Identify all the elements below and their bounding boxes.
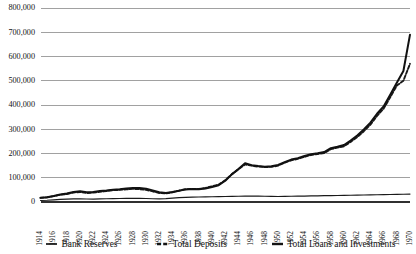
- y-tick-label: 600,000: [8, 52, 35, 61]
- y-tick-label: 500,000: [8, 76, 35, 85]
- y-axis-tick-labels: 0100,000200,000300,000400,000500,000600,…: [8, 3, 35, 206]
- x-tick-label: 1946: [246, 231, 255, 246]
- y-tick-label: 200,000: [8, 149, 35, 158]
- x-tick-label: 1948: [260, 231, 269, 246]
- y-tick-label: 400,000: [8, 100, 35, 109]
- x-tick-label: 1930: [141, 231, 150, 246]
- x-tick-label: 1928: [128, 231, 137, 246]
- y-tick-label: 800,000: [8, 3, 35, 12]
- legend-label: Total Deposits: [173, 239, 228, 249]
- x-tick-label: 1914: [35, 231, 44, 246]
- chart-legend: Bank ReservesTotal DepositsTotal Loans a…: [46, 239, 396, 249]
- data-series: [41, 35, 411, 201]
- chart-container: 0100,000200,000300,000400,000500,000600,…: [0, 0, 416, 254]
- line-chart: 0100,000200,000300,000400,000500,000600,…: [0, 0, 416, 254]
- gridlines: [41, 8, 411, 202]
- series-line: [41, 35, 411, 198]
- series-line: [41, 194, 411, 200]
- y-tick-label: 0: [31, 197, 35, 206]
- y-tick-label: 100,000: [8, 173, 35, 182]
- x-tick-label: 1944: [233, 231, 242, 246]
- y-tick-label: 300,000: [8, 125, 35, 134]
- legend-label: Total Loans and Investments: [288, 239, 396, 249]
- y-tick-label: 700,000: [8, 28, 35, 37]
- x-tick-label: 1970: [405, 231, 414, 246]
- legend-label: Bank Reserves: [62, 239, 118, 249]
